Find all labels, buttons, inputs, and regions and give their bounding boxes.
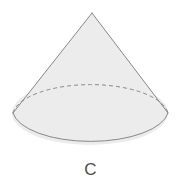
shape-label: C: [0, 160, 181, 180]
cone-figure: C: [0, 0, 181, 188]
cone-base-fill: [12, 81, 168, 145]
